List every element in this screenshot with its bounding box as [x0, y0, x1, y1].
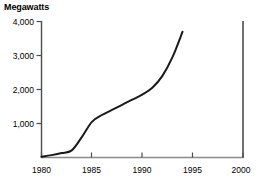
x-tick-label-1995: 1995 [183, 165, 202, 175]
data-series-line-megawatts [42, 32, 183, 157]
chart-plot-area: 4,000 3,000 2,000 1,000 1980 1985 1990 1… [0, 0, 257, 183]
y-tick-label-2000: 2,000 [13, 85, 35, 95]
chart-container: Megawatts 4,000 3,000 2,000 1,000 1980 1… [0, 0, 257, 183]
y-tick-label-3000: 3,000 [13, 51, 35, 61]
x-tick-label-1990: 1990 [133, 165, 152, 175]
y-tick-label-1000: 1,000 [13, 119, 35, 129]
y-tick-label-4000: 4,000 [13, 17, 35, 27]
x-tick-label-1985: 1985 [82, 165, 101, 175]
x-tick-label-2000: 2000 [232, 165, 251, 175]
x-tick-label-1980: 1980 [32, 165, 51, 175]
